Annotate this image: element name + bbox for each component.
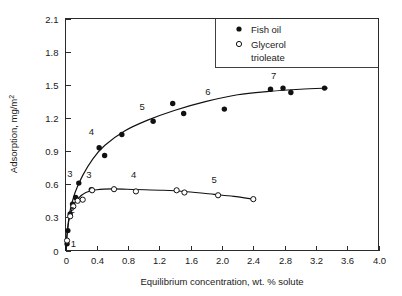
x-axis-title: Equilibrium concentration, wt. % solute xyxy=(140,276,303,287)
data-point-fish-oil xyxy=(181,111,186,116)
y-axis-title: Adsorption, mg/m2 xyxy=(8,95,20,173)
point-label-4: 4 xyxy=(131,169,136,180)
point-label-5: 5 xyxy=(212,174,217,185)
adsorption-isotherm-chart: 00.40.81.21.62.02.42.83.23.64.0 00.30.60… xyxy=(0,0,402,296)
x-axis-tick-labels: 00.40.81.21.62.02.42.83.23.64.0 xyxy=(64,255,386,266)
point-label-5: 5 xyxy=(140,101,145,112)
data-point-glycerol-trioleate xyxy=(80,197,85,202)
x-tick-label: 0.8 xyxy=(122,255,135,266)
x-tick-label: 3.6 xyxy=(341,255,354,266)
point-label-1: 1 xyxy=(71,238,76,249)
data-point-fish-oil xyxy=(150,119,155,124)
x-axis-ticks xyxy=(67,246,380,251)
x-tick-label: 2.8 xyxy=(279,255,292,266)
y-tick-label: 0 xyxy=(53,246,58,257)
data-point-glycerol-trioleate xyxy=(75,198,80,203)
y-tick-label: 0.6 xyxy=(45,179,58,190)
data-point-glycerol-trioleate xyxy=(174,188,179,193)
series-curves xyxy=(66,88,328,250)
y-axis-title-group: Adsorption, mg/m2 xyxy=(8,95,20,173)
chart-figure: 00.40.81.21.62.02.42.83.23.64.0 00.30.60… xyxy=(0,0,402,296)
point-label-6: 6 xyxy=(205,86,210,97)
legend-label-glycerol-line2: trioleate xyxy=(251,52,285,63)
y-tick-label: 2.1 xyxy=(45,14,58,25)
data-point-glycerol-trioleate xyxy=(111,187,116,192)
data-point-fish-oil xyxy=(76,180,81,185)
data-point-glycerol-trioleate xyxy=(182,190,187,195)
data-point-fish-oil xyxy=(96,145,101,150)
series-markers xyxy=(64,85,327,246)
data-point-glycerol-trioleate xyxy=(251,197,256,202)
legend-label-glycerol-line1: Glycerol xyxy=(251,39,286,50)
data-point-fish-oil xyxy=(102,153,107,158)
x-tick-label: 3.2 xyxy=(310,255,323,266)
point-label-2: 2 xyxy=(70,204,75,215)
x-tick-label: 0.4 xyxy=(91,255,104,266)
curve-glycerol-trioleate xyxy=(66,189,254,251)
x-tick-label: 2.0 xyxy=(216,255,229,266)
y-tick-label: 0.9 xyxy=(45,146,58,157)
legend-marker-glycerol-trioleate xyxy=(236,41,241,46)
data-point-fish-oil xyxy=(322,85,327,90)
y-axis-tick-labels: 00.30.60.91.21.51.82.1 xyxy=(45,14,58,257)
y-tick-label: 1.2 xyxy=(45,113,58,124)
data-point-fish-oil xyxy=(222,106,227,111)
data-point-glycerol-trioleate xyxy=(64,238,69,243)
data-point-fish-oil xyxy=(65,228,70,233)
data-point-fish-oil xyxy=(119,132,124,137)
point-label-7: 7 xyxy=(271,70,276,81)
x-tick-label: 1.2 xyxy=(153,255,166,266)
data-point-fish-oil xyxy=(288,90,293,95)
y-tick-label: 1.8 xyxy=(45,47,58,58)
data-point-fish-oil xyxy=(170,101,175,106)
axis-box xyxy=(66,19,379,251)
x-tick-label: 2.4 xyxy=(247,255,260,266)
curve-fish-oil xyxy=(66,88,328,250)
data-point-fish-oil xyxy=(280,85,285,90)
y-tick-label: 1.5 xyxy=(45,80,58,91)
legend: Fish oil Glycerol trioleate xyxy=(216,19,379,68)
point-label-4: 4 xyxy=(89,126,94,137)
x-tick-label: 4.0 xyxy=(373,255,386,266)
x-tick-label: 1.6 xyxy=(185,255,198,266)
data-point-glycerol-trioleate xyxy=(133,189,138,194)
point-label-3: 3 xyxy=(86,169,91,180)
legend-label-fish-oil: Fish oil xyxy=(251,24,281,35)
x-tick-label: 0 xyxy=(64,255,69,266)
data-point-glycerol-trioleate xyxy=(90,188,95,193)
y-tick-label: 0.3 xyxy=(45,212,58,223)
legend-marker-fish-oil xyxy=(236,26,241,31)
series-point-labels: 1234567345 xyxy=(67,70,276,249)
point-label-3: 3 xyxy=(67,168,72,179)
data-point-glycerol-trioleate xyxy=(215,193,220,198)
plot-frame xyxy=(66,19,379,251)
data-point-fish-oil xyxy=(268,87,273,92)
